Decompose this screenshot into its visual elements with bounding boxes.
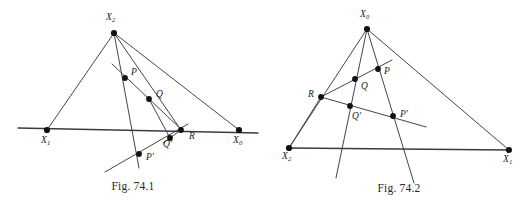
vertex-label-right-base: X0 (233, 136, 242, 146)
point-label-prime: ' (359, 111, 361, 121)
line-cevian-apex-R (114, 33, 181, 130)
point-P (122, 75, 128, 81)
point-right-base (236, 127, 242, 133)
figure-pair: Fig. 74.1 X2X1X0PQRQ'P' Fig. 74.2 X0X2X1… (0, 0, 532, 212)
point-label-prime: ' (406, 109, 408, 119)
line-side-apex-left (47, 33, 114, 130)
figure-74-1-caption: Fig. 74.1 (0, 180, 266, 192)
vertex-label-text: X (360, 9, 366, 19)
point-label-Q: Q (361, 82, 368, 92)
vertex-label-text: X (41, 135, 47, 145)
figure-74-2: Fig. 74.2 X0X2X1RQPQ'P' (266, 0, 532, 212)
vertex-label-subscript: 1 (509, 158, 512, 165)
vertex-label-text: X (503, 154, 509, 164)
point-label-P-prime: P' (400, 110, 408, 120)
vertex-label-right-base: X1 (503, 155, 512, 165)
line-side-apex-right (114, 33, 239, 130)
vertex-label-text: X (106, 12, 112, 22)
figure-74-2-caption: Fig. 74.2 (266, 182, 532, 194)
point-Q-prime (347, 103, 353, 109)
point-label-text: P (131, 67, 137, 77)
line-line-Q-Qprime (149, 99, 170, 138)
point-P-prime (390, 113, 396, 119)
point-Q (146, 96, 152, 102)
line-line-R-Pprime (321, 97, 426, 127)
line-baseline (18, 128, 258, 133)
point-label-Q-prime: Q' (163, 140, 172, 150)
vertex-label-left-base: X2 (282, 152, 291, 162)
point-apex (364, 26, 370, 32)
point-label-text: R (189, 131, 195, 141)
point-label-P: P (131, 68, 137, 78)
line-side-apex-right (367, 29, 509, 150)
point-apex (111, 30, 117, 36)
line-cevian-apex-Pprime (114, 33, 139, 168)
vertex-label-subscript: 2 (112, 16, 115, 23)
point-label-text: R (308, 89, 314, 99)
point-label-text: Q (361, 81, 368, 91)
line-cevian-apex-down-1 (336, 29, 367, 178)
point-label-text: Q (352, 111, 359, 121)
point-label-prime: ' (152, 152, 154, 162)
vertex-label-subscript: 0 (366, 13, 369, 20)
point-label-text: Q (156, 89, 163, 99)
vertex-label-apex: X2 (106, 13, 115, 23)
point-P (375, 66, 381, 72)
point-label-R: R (189, 132, 195, 142)
point-label-prime: ' (170, 139, 172, 149)
point-label-text: P (384, 66, 390, 76)
figure-74-1: Fig. 74.1 X2X1X0PQRQ'P' (0, 0, 266, 212)
point-label-P: P (384, 67, 390, 77)
point-R (178, 127, 184, 133)
point-P-prime (136, 151, 142, 157)
point-left-base (44, 127, 50, 133)
point-label-P-prime: P' (146, 153, 154, 163)
line-cevian-apex-down-2 (367, 29, 414, 183)
point-label-Q-prime: Q' (352, 112, 361, 122)
point-label-Q: Q (156, 90, 163, 100)
vertex-label-text: X (282, 151, 288, 161)
point-Q (352, 76, 358, 82)
vertex-label-left-base: X1 (41, 136, 50, 146)
point-R (318, 94, 324, 100)
figure-74-2-canvas (266, 0, 532, 212)
point-label-text: Q (163, 139, 170, 149)
vertex-label-text: X (233, 135, 239, 145)
line-line-R-baseline (289, 97, 321, 148)
point-label-R: R (308, 90, 314, 100)
line-baseline (289, 148, 509, 150)
vertex-label-subscript: 0 (239, 139, 242, 146)
vertex-label-subscript: 2 (288, 155, 291, 162)
point-right-base (506, 147, 512, 153)
vertex-label-subscript: 1 (47, 139, 50, 146)
vertex-label-apex: X0 (360, 10, 369, 20)
